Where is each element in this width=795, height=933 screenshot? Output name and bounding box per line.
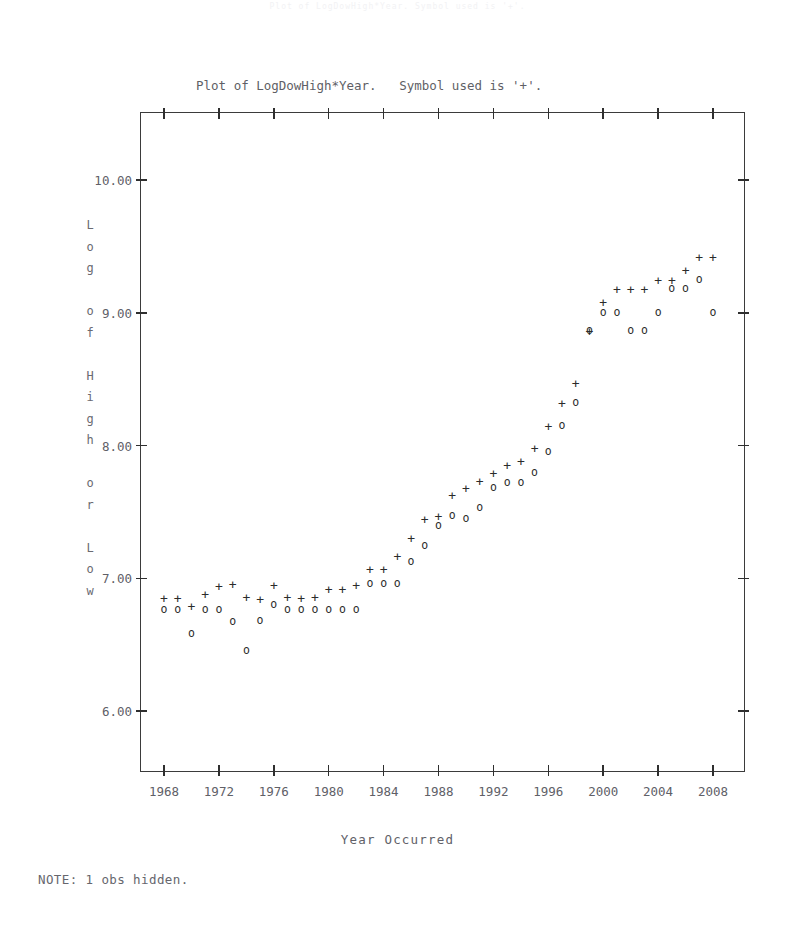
- x-tick-label: 2008: [698, 784, 728, 799]
- data-point-high: +: [572, 377, 580, 390]
- x-tick-label: 2000: [588, 784, 618, 799]
- data-point-high: +: [421, 512, 429, 525]
- data-point-low: o: [586, 326, 593, 338]
- data-point-low: o: [312, 604, 319, 616]
- data-point-low: o: [517, 477, 524, 489]
- data-point-low: o: [298, 604, 305, 616]
- data-point-low: o: [600, 307, 607, 319]
- x-tick-label: 1972: [204, 784, 234, 799]
- y-axis-title-char: [82, 516, 98, 538]
- x-tick-top: [712, 108, 714, 119]
- plot-note: NOTE: 1 obs hidden.: [38, 872, 189, 887]
- data-point-high: +: [558, 397, 566, 410]
- data-point-low: o: [627, 326, 634, 338]
- data-point-low: o: [572, 397, 579, 409]
- x-tick-bottom: [438, 765, 440, 776]
- data-point-high: +: [544, 419, 552, 432]
- y-axis-title-char: H: [82, 366, 98, 388]
- x-tick-label: 1976: [259, 784, 289, 799]
- data-point-high: +: [503, 459, 511, 472]
- x-tick-bottom: [493, 765, 495, 776]
- clipped-header-text: Plot of LogDowHigh*Year. Symbol used is …: [0, 0, 795, 14]
- x-tick-top: [328, 108, 330, 119]
- data-point-low: o: [257, 615, 264, 627]
- data-point-low: o: [202, 604, 209, 616]
- data-point-low: o: [380, 578, 387, 590]
- data-point-high: +: [407, 532, 415, 545]
- data-point-high: +: [325, 582, 333, 595]
- data-point-high: +: [654, 273, 662, 286]
- data-point-low: o: [270, 599, 277, 611]
- y-tick-right: [738, 578, 749, 580]
- data-point-high: +: [640, 282, 648, 295]
- x-tick-bottom: [602, 765, 604, 776]
- y-tick-left: [136, 578, 147, 580]
- data-point-high: +: [380, 562, 388, 575]
- x-tick-label: 1980: [314, 784, 344, 799]
- y-tick-label: 9.00: [102, 305, 132, 320]
- data-point-low: o: [682, 283, 689, 295]
- data-point-high: +: [201, 588, 209, 601]
- y-axis-title-char: w: [82, 581, 98, 603]
- x-tick-bottom: [163, 765, 165, 776]
- x-tick-bottom: [712, 765, 714, 776]
- data-point-low: o: [188, 628, 195, 640]
- y-tick-label: 8.00: [102, 438, 132, 453]
- data-point-high: +: [215, 580, 223, 593]
- x-tick-label: 1984: [369, 784, 399, 799]
- data-point-low: o: [545, 446, 552, 458]
- data-point-low: o: [449, 510, 456, 522]
- data-point-high: +: [270, 578, 278, 591]
- data-point-high: +: [188, 600, 196, 613]
- data-point-high: +: [613, 282, 621, 295]
- y-axis-title-char: o: [82, 559, 98, 581]
- y-axis-title-char: h: [82, 430, 98, 452]
- y-axis-title-char: o: [82, 473, 98, 495]
- y-axis-title-char: f: [82, 323, 98, 345]
- data-point-low: o: [284, 604, 291, 616]
- y-tick-label: 6.00: [102, 704, 132, 719]
- data-point-high: +: [339, 582, 347, 595]
- clipped-footer-text: [0, 903, 795, 917]
- y-axis-title-char: [82, 344, 98, 366]
- data-point-high: +: [627, 282, 635, 295]
- y-axis-title-char: i: [82, 387, 98, 409]
- y-tick-label: 7.00: [102, 571, 132, 586]
- data-point-high: +: [489, 467, 497, 480]
- data-point-high: +: [242, 590, 250, 603]
- x-tick-top: [383, 108, 385, 119]
- data-point-low: o: [394, 578, 401, 590]
- data-point-high: +: [462, 481, 470, 494]
- x-tick-top: [273, 108, 275, 119]
- data-point-low: o: [408, 557, 415, 569]
- data-point-low: o: [655, 307, 662, 319]
- data-point-high: +: [448, 488, 456, 501]
- y-axis-title-char: o: [82, 237, 98, 259]
- plot-title-line-1: Plot of LogDowHigh*Year. Symbol used is …: [196, 76, 716, 96]
- y-tick-right: [738, 312, 749, 314]
- y-tick-left: [136, 445, 147, 447]
- x-tick-top: [548, 108, 550, 119]
- x-tick-label: 2004: [643, 784, 673, 799]
- x-tick-label: 1996: [533, 784, 563, 799]
- x-tick-top: [163, 108, 165, 119]
- x-tick-top: [218, 108, 220, 119]
- data-point-high: +: [682, 264, 690, 277]
- x-tick-top: [602, 108, 604, 119]
- data-point-high: +: [709, 250, 717, 263]
- data-point-low: o: [490, 482, 497, 494]
- y-axis-title-char: L: [82, 538, 98, 560]
- y-axis-title-char: r: [82, 495, 98, 517]
- y-tick-left: [136, 710, 147, 712]
- y-axis-title-char: [82, 452, 98, 474]
- y-axis-title: Log of High or Low: [82, 215, 98, 602]
- data-point-high: +: [393, 549, 401, 562]
- x-tick-top: [438, 108, 440, 119]
- data-point-low: o: [215, 604, 222, 616]
- data-point-high: +: [531, 442, 539, 455]
- x-tick-top: [493, 108, 495, 119]
- data-point-high: +: [476, 475, 484, 488]
- data-point-low: o: [174, 604, 181, 616]
- data-point-high: +: [256, 593, 264, 606]
- x-tick-bottom: [657, 765, 659, 776]
